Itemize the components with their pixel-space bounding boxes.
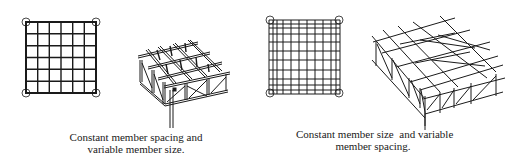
caption-line-2: variable member size. <box>66 144 206 156</box>
caption-line-1: Constant member spacing and <box>66 132 206 144</box>
plan-grid-constant-spacing <box>22 18 100 97</box>
caption-line-2: member spacing. <box>296 141 450 153</box>
caption-constant-spacing: Constant member spacing and variable mem… <box>66 132 206 155</box>
iso-truss-variable-spacing <box>372 16 505 130</box>
plan-grid-variable-spacing <box>266 16 343 97</box>
iso-truss-constant-spacing <box>138 40 230 128</box>
caption-line-1: Constant member size and variable <box>296 129 450 141</box>
caption-constant-size: Constant member size and variable member… <box>296 129 450 152</box>
